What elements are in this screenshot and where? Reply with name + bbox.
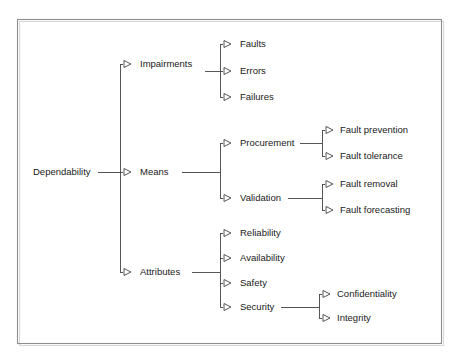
arrow-head-icon-attributes	[124, 269, 131, 276]
node-label-safety: Safety	[240, 277, 267, 288]
arrow-head-icon-reliability	[224, 230, 231, 237]
arrow-head-icon-security	[224, 304, 231, 311]
node-label-availability: Availability	[240, 252, 285, 263]
node-label-procurement: Procurement	[240, 137, 295, 148]
arrow-head-icon-fault-removal	[326, 181, 333, 188]
node-label-confidentiality: Confidentiality	[337, 288, 397, 299]
node-label-dependability: Dependability	[33, 166, 91, 177]
tree-diagram-canvas: Dependability Impairments Means Attribut…	[0, 0, 458, 363]
node-label-integrity: Integrity	[337, 312, 371, 323]
arrow-head-icon-errors	[224, 68, 231, 75]
node-label-reliability: Reliability	[240, 227, 281, 238]
dependability-tree-figure: Dependability Impairments Means Attribut…	[0, 0, 458, 363]
arrow-head-icon-fault-tolerance	[326, 153, 333, 160]
arrow-head-icon-fault-prevention	[326, 127, 333, 134]
node-label-validation: Validation	[240, 192, 281, 203]
arrow-head-icon-safety	[224, 280, 231, 287]
arrow-head-icon-failures	[224, 94, 231, 101]
node-label-means: Means	[140, 166, 169, 177]
node-label-errors: Errors	[240, 65, 266, 76]
arrow-head-icon-faults	[224, 41, 231, 48]
node-label-security: Security	[240, 301, 275, 312]
arrow-head-icon-availability	[224, 255, 231, 262]
arrow-head-icon-impairments	[124, 61, 131, 68]
node-label-fault-forecasting: Fault forecasting	[340, 204, 410, 215]
arrow-head-icon-integrity	[323, 315, 330, 322]
node-label-fault-prevention: Fault prevention	[340, 124, 408, 135]
node-label-fault-removal: Fault removal	[340, 178, 398, 189]
node-label-impairments: Impairments	[140, 58, 193, 69]
node-label-faults: Faults	[240, 38, 266, 49]
node-label-attributes: Attributes	[140, 266, 180, 277]
arrow-head-icon-fault-forecasting	[326, 207, 333, 214]
arrow-head-icon-confidentiality	[323, 291, 330, 298]
arrow-head-icon-means	[124, 169, 131, 176]
arrow-head-icon-procurement	[224, 140, 231, 147]
node-label-failures: Failures	[240, 91, 274, 102]
arrow-head-icon-validation	[224, 195, 231, 202]
node-label-fault-tolerance: Fault tolerance	[340, 150, 403, 161]
